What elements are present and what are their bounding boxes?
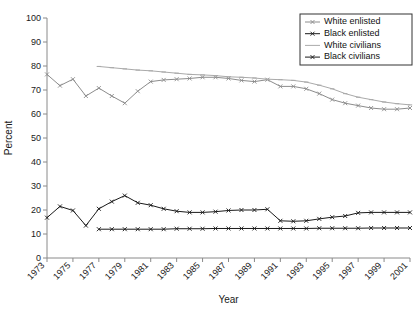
y-tick-label: 100 <box>26 13 41 23</box>
chart-container: 0102030405060708090100197319751977197919… <box>0 0 416 312</box>
x-tick-label: 1975 <box>51 260 72 281</box>
y-axis-title: Percent <box>3 121 14 156</box>
series-black-civilians <box>97 226 412 231</box>
x-tick-label: 1977 <box>77 260 98 281</box>
y-tick-label: 10 <box>31 229 41 239</box>
data-point <box>97 207 101 211</box>
legend-label: White civilians <box>324 40 382 50</box>
y-tick-label: 60 <box>31 109 41 119</box>
y-tick-label: 40 <box>31 157 41 167</box>
y-tick-label: 90 <box>31 37 41 47</box>
y-tick-label: 30 <box>31 181 41 191</box>
y-tick-label: 80 <box>31 61 41 71</box>
data-point <box>123 101 127 105</box>
x-tick-label: 1987 <box>207 260 228 281</box>
y-tick-label: 70 <box>31 85 41 95</box>
x-tick-label: 1985 <box>181 260 202 281</box>
series-white-civilians <box>97 66 413 104</box>
data-point <box>84 94 88 98</box>
x-tick-label: 1991 <box>259 260 280 281</box>
data-point <box>123 194 127 198</box>
line-chart: 0102030405060708090100197319751977197919… <box>0 0 416 312</box>
data-point <box>84 224 88 228</box>
series-white-enlisted <box>45 72 412 111</box>
x-tick-label: 1983 <box>155 260 176 281</box>
legend-label: Black enlisted <box>324 28 380 38</box>
data-point <box>71 77 75 81</box>
y-tick-label: 20 <box>31 205 41 215</box>
x-tick-label: 1979 <box>103 260 124 281</box>
series-black-enlisted <box>45 194 412 228</box>
x-axis-title: Year <box>218 294 239 305</box>
x-tick-label: 1999 <box>362 260 383 281</box>
x-tick-label: 2001 <box>388 260 409 281</box>
y-tick-label: 50 <box>31 133 41 143</box>
data-point <box>58 84 62 88</box>
data-point <box>110 200 114 204</box>
x-tick-label: 1973 <box>25 260 46 281</box>
data-point <box>110 94 114 98</box>
x-tick-label: 1981 <box>129 260 150 281</box>
series-line <box>47 74 410 109</box>
x-tick-label: 1989 <box>233 260 254 281</box>
x-tick-label: 1993 <box>284 260 305 281</box>
x-tick-label: 1995 <box>310 260 331 281</box>
legend-label: White enlisted <box>324 16 381 26</box>
legend-label: Black civilians <box>324 51 381 61</box>
data-point <box>136 89 140 93</box>
x-tick-label: 1997 <box>336 260 357 281</box>
data-point <box>97 86 101 90</box>
